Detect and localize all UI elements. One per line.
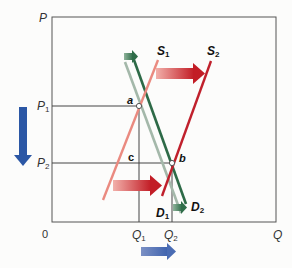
d2-label: D2	[191, 201, 204, 215]
point-b-label: b	[179, 153, 186, 164]
p1-label: P1	[37, 100, 49, 114]
point-c-label: c	[128, 152, 134, 163]
q2-label: Q2	[164, 229, 178, 243]
equilibrium-point-a	[136, 103, 141, 108]
p2-label: P2	[37, 157, 49, 171]
supply-shift-arrow-top	[156, 63, 205, 84]
d1-label: D1	[156, 207, 169, 221]
demand-shift-arrow-top	[124, 50, 138, 63]
supply-shift-arrow-bottom	[113, 175, 162, 196]
quantity-increase-arrow	[141, 243, 176, 260]
equilibrium-point-b	[169, 160, 174, 165]
point-a-label: a	[127, 95, 133, 106]
supply-curve-s2	[162, 61, 211, 196]
s1-label: S1	[157, 45, 169, 59]
q1-label: Q1	[132, 229, 146, 243]
price-axis-label: P	[39, 12, 47, 24]
price-decrease-arrow	[14, 107, 32, 166]
s2-label: S2	[207, 45, 219, 59]
origin-label: 0	[42, 229, 48, 240]
quantity-axis-label: Q	[273, 229, 282, 241]
